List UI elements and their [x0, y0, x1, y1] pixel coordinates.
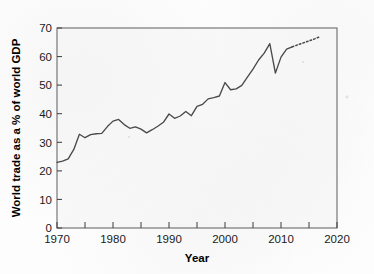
scan-speck	[302, 61, 304, 63]
x-tick-label: 1970	[44, 233, 70, 245]
x-tick-label: 2010	[268, 233, 294, 245]
y-axis-tick-labels: 70 60 50 40 30 20 10 0	[39, 22, 52, 234]
y-tick-label: 40	[39, 108, 52, 120]
x-tick-label: 2000	[212, 233, 238, 245]
chart-figure: 70 60 50 40 30 20 10 0 1970 1980	[0, 0, 374, 274]
x-tick-label: 1980	[100, 233, 126, 245]
y-tick-label: 10	[39, 194, 52, 206]
x-tick-label: 2020	[324, 233, 350, 245]
x-tick-label: 1990	[156, 233, 182, 245]
y-axis-title: World trade as a % of world GDP	[10, 38, 22, 217]
scan-speck	[128, 136, 130, 138]
scan-speck	[346, 96, 349, 99]
y-tick-label: 70	[39, 22, 52, 34]
y-tick-label: 60	[39, 51, 52, 63]
world-trade-line-chart: 70 60 50 40 30 20 10 0 1970 1980	[0, 0, 374, 274]
y-tick-label: 20	[39, 165, 52, 177]
plot-area-background	[57, 28, 337, 228]
y-tick-label: 50	[39, 79, 52, 91]
x-axis-tick-labels: 1970 1980 1990 2000 2010 2020	[44, 233, 350, 245]
y-tick-label: 30	[39, 137, 52, 149]
x-axis-title: Year	[185, 252, 210, 264]
